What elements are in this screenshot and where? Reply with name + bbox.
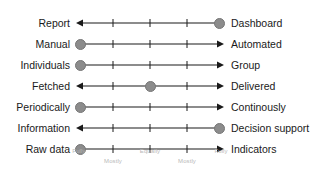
row-left-label: Report xyxy=(0,14,70,32)
row-left-label: Manual xyxy=(0,35,70,53)
spectrum-row: FetchedDelivered xyxy=(0,77,314,95)
spectrum-marker[interactable] xyxy=(214,18,225,29)
row-right-label: Dashboard xyxy=(231,14,282,32)
spectrum-axis xyxy=(76,56,224,74)
row-right-label: Group xyxy=(231,56,260,74)
scale-tick-label: Mostly xyxy=(178,158,196,164)
spectrum-row: ReportDashboard xyxy=(0,14,314,32)
spectrum-marker[interactable] xyxy=(145,81,156,92)
spectrum-marker[interactable] xyxy=(75,60,86,71)
spectrum-axis xyxy=(76,14,224,32)
spectrum-marker[interactable] xyxy=(75,102,86,113)
spectrum-axis xyxy=(76,98,224,116)
row-right-label: Decision support xyxy=(231,119,309,137)
row-left-label: Information xyxy=(0,119,70,137)
scale-tick-label: Fully xyxy=(72,148,85,154)
diagram-canvas: ReportDashboardManualAutomatedIndividual… xyxy=(0,0,314,174)
spectrum-row: IndividualsGroup xyxy=(0,56,314,74)
scale-tick-label: Equally xyxy=(140,148,160,154)
row-left-label: Periodically xyxy=(0,98,70,116)
spectrum-row: ManualAutomated xyxy=(0,35,314,53)
row-right-label: Automated xyxy=(231,35,282,53)
spectrum-marker[interactable] xyxy=(214,123,225,134)
row-right-label: Continously xyxy=(231,98,286,116)
spectrum-row: InformationDecision support xyxy=(0,119,314,137)
spectrum-marker[interactable] xyxy=(75,39,86,50)
spectrum-axis xyxy=(76,119,224,137)
scale-caption-row: FullyMostlyEquallyMostlyFully xyxy=(0,148,314,174)
row-left-label: Individuals xyxy=(0,56,70,74)
scale-tick-label: Mostly xyxy=(104,158,122,164)
spectrum-row: PeriodicallyContinously xyxy=(0,98,314,116)
row-right-label: Delivered xyxy=(231,77,275,95)
row-left-label: Fetched xyxy=(0,77,70,95)
spectrum-axis xyxy=(76,35,224,53)
scale-tick-label: Fully xyxy=(214,148,227,154)
